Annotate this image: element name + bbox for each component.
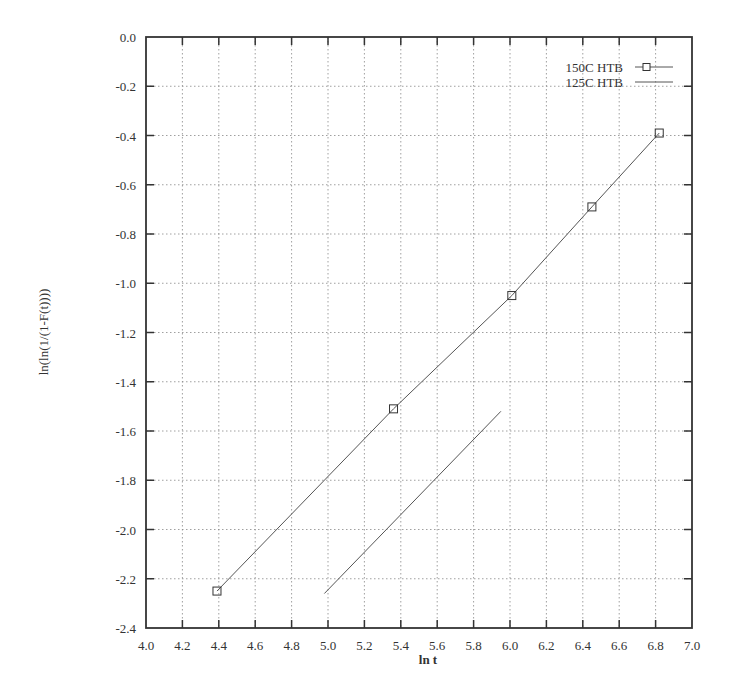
- x-tick-label: 5.4: [393, 638, 410, 653]
- series-line: [324, 411, 501, 593]
- weibull-plot: 4.04.24.44.64.85.05.25.45.65.86.06.26.46…: [0, 0, 737, 692]
- x-tick-label: 6.6: [611, 638, 628, 653]
- x-tick-label: 5.2: [356, 638, 372, 653]
- x-tick-label: 7.0: [684, 638, 700, 653]
- y-tick-label: -1.6: [115, 424, 136, 439]
- x-tick-label: 5.0: [320, 638, 336, 653]
- y-axis-title: ln(ln(1/(1-F(t)))): [36, 289, 51, 376]
- y-tick-label: -0.6: [115, 178, 136, 193]
- x-axis-title: ln t: [419, 652, 438, 667]
- x-tick-label: 6.8: [647, 638, 663, 653]
- y-tick-label: -1.2: [115, 326, 136, 341]
- y-tick-label: -2.2: [115, 572, 136, 587]
- x-tick-label: 6.0: [502, 638, 518, 653]
- grid-lines: [146, 37, 692, 628]
- x-axis: 4.04.24.44.64.85.05.25.45.65.86.06.26.46…: [138, 37, 700, 653]
- legend-label: 150C HTB: [566, 60, 624, 75]
- y-tick-label: -1.8: [115, 473, 136, 488]
- x-tick-label: 5.8: [465, 638, 481, 653]
- y-tick-label: -2.4: [115, 621, 136, 636]
- y-tick-label: -1.4: [115, 375, 136, 390]
- x-tick-label: 4.0: [138, 638, 154, 653]
- x-tick-label: 6.4: [575, 638, 592, 653]
- y-tick-label: -2.0: [115, 523, 136, 538]
- legend: 150C HTB125C HTB: [566, 60, 673, 90]
- y-tick-label: 0.0: [120, 30, 136, 45]
- x-tick-label: 4.4: [211, 638, 228, 653]
- y-tick-label: -0.4: [115, 129, 136, 144]
- legend-square-icon: [643, 64, 650, 71]
- y-tick-label: -0.8: [115, 227, 136, 242]
- y-axis: 0.0-0.2-0.4-0.6-0.8-1.0-1.2-1.4-1.6-1.8-…: [115, 30, 692, 636]
- x-tick-label: 4.2: [174, 638, 190, 653]
- x-tick-label: 6.2: [538, 638, 554, 653]
- y-tick-label: -1.0: [115, 276, 136, 291]
- x-tick-label: 4.6: [247, 638, 264, 653]
- series-line: [217, 133, 659, 591]
- x-tick-label: 4.8: [283, 638, 299, 653]
- legend-label: 125C HTB: [566, 75, 624, 90]
- data-series: [213, 129, 663, 595]
- y-tick-label: -0.2: [115, 79, 136, 94]
- x-tick-label: 5.6: [429, 638, 446, 653]
